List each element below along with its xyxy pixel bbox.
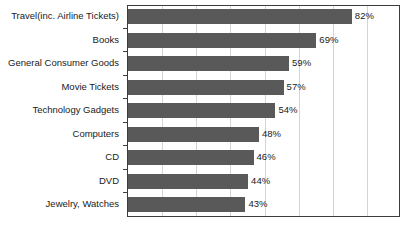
bar [128,127,259,142]
axis-tick [123,145,128,146]
category-label: Movie Tickets [61,79,119,94]
bar [128,33,316,48]
axis-tick [123,122,128,123]
category-label: Computers [73,126,119,141]
value-label: 48% [262,126,281,141]
axis-tick [123,51,128,52]
bar [128,197,245,212]
axis-tick [123,75,128,76]
category-label: Jewelry, Watches [46,196,119,211]
value-label: 43% [248,196,267,211]
gridline [367,6,368,216]
value-label: 59% [292,55,311,70]
value-label: 46% [257,149,276,164]
bar-chart: Travel(inc. Airline Tickets)BooksGeneral… [0,0,408,227]
bar [128,150,254,165]
axis-tick [123,98,128,99]
axis-tick [123,192,128,193]
value-label: 44% [251,173,270,188]
bar [128,80,284,95]
value-label: 57% [287,79,306,94]
category-label: General Consumer Goods [8,55,119,70]
value-label: 54% [278,102,297,117]
value-label: 82% [355,8,374,23]
category-label: CD [105,149,119,164]
axis-tick [123,28,128,29]
category-label: Technology Gadgets [32,102,119,117]
bar [128,56,289,71]
bar [128,9,352,24]
bar [128,103,275,118]
category-label: Travel(inc. Airline Tickets) [11,8,119,23]
value-label: 69% [319,32,338,47]
category-label: DVD [99,173,119,188]
category-axis-labels: Travel(inc. Airline Tickets)BooksGeneral… [0,5,123,217]
category-label: Books [93,32,119,47]
axis-tick [123,169,128,170]
bar [128,174,248,189]
